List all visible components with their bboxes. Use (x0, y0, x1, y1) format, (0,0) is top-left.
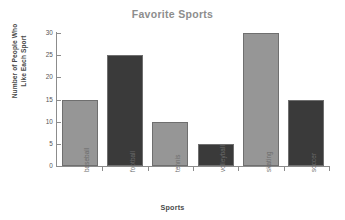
y-tick-label: 10 (31, 118, 53, 125)
bar-soccer (288, 100, 324, 167)
plot-area (57, 33, 329, 166)
x-tick-mark (329, 167, 330, 171)
x-category-label-skating: skating (265, 126, 274, 172)
y-tick-label: 20 (31, 73, 53, 80)
y-tick-mark (57, 166, 61, 167)
x-category-label-baseball: baseball (83, 126, 92, 172)
y-axis-title-line-1: Number of People Who (10, 6, 19, 116)
x-tick-mark (193, 167, 194, 171)
bar-baseball (62, 100, 98, 167)
x-tick-mark (102, 167, 103, 171)
y-tick-label: 5 (31, 140, 53, 147)
y-tick-label: 25 (31, 51, 53, 58)
x-axis-title: Sports (0, 203, 345, 212)
bar-volleyball (198, 144, 234, 166)
x-category-label-football: football (129, 126, 138, 172)
y-tick-label: 30 (31, 29, 53, 36)
bar-chart-figure: Favorite Sports Number of People Who Lik… (0, 0, 345, 220)
x-tick-mark (148, 167, 149, 171)
x-category-label-volleyball: volleyball (219, 126, 228, 172)
x-category-label-soccer: soccer (310, 126, 319, 172)
y-tick-label: 15 (31, 96, 53, 103)
chart-title: Favorite Sports (0, 8, 345, 20)
bar-tennis (152, 122, 188, 166)
x-tick-mark (284, 167, 285, 171)
x-tick-mark (238, 167, 239, 171)
y-tick-label: 0 (31, 162, 53, 169)
y-axis-title-line-2: Like Each Sport (19, 6, 28, 116)
x-category-label-tennis: tennis (174, 126, 183, 172)
